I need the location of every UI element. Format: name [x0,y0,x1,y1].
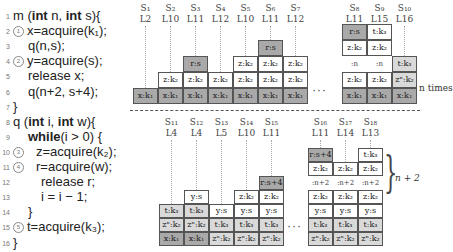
location-label: L13 [358,128,383,139]
code-line: 1m (int n, int s){ [0,8,100,23]
line-number: 12 [0,175,10,190]
step-marker-icon: 4 [13,162,24,173]
code-text: q (int i, int w){ [13,114,95,129]
repeat-note: n + 2 [395,173,420,183]
code-token: y=acquire(s); [27,53,103,68]
lock-cell: z:k₂ [367,72,392,88]
guide-line [245,26,246,56]
code-text: y=acquire(s); [27,53,103,68]
line-number: 7 [0,100,10,115]
guide-line [246,140,247,190]
code-line: 42y=acquire(s); [0,53,103,68]
lock-cell: zⁿ:k₂ [159,218,184,232]
repeat-marker: :n+2 [308,176,333,190]
repeat-marker: :n+2 [333,176,358,190]
line-number: 6 [0,85,10,100]
step-marker-icon: 1 [13,26,24,37]
guide-line [270,26,271,40]
guide-line [145,26,146,88]
lock-cell: y:s [308,204,333,218]
lock-cell: t:k₃ [367,24,392,40]
code-token: } [28,204,32,219]
lock-cell: x:k₁ [184,232,209,246]
line-number: 5 [0,69,10,84]
code-line: 7} [0,99,17,114]
lock-cell: t:k₃ [259,218,284,232]
code-line: 114r=acquire(w); [0,159,112,174]
guide-line [221,140,222,204]
lock-cell: x:k₁ [158,88,183,104]
lock-cell: zⁿ:k₂ [358,232,383,246]
location-label: L14 [333,128,358,139]
line-number: 9 [0,130,10,145]
lock-cell: zⁿ:k₂ [333,232,358,246]
code-line: 6q(n+2, s+4); [0,84,98,99]
lock-cell: x:k₁ [342,88,367,104]
state-label: S₁₆ [308,117,333,128]
keyword: while [28,129,61,144]
code-token: i, [44,114,58,129]
step-marker-icon: 5 [13,222,24,233]
keyword: int [58,114,74,129]
lock-cell: z:k₂ [258,72,283,88]
lock-cell: z:k₂ [233,56,258,72]
keyword: int [32,8,48,23]
lock-cell: t:k₃ [234,218,259,232]
lock-cell: x:k₁ [159,232,184,246]
code-text: z=acquire(k₂); [27,144,117,159]
code-text: r=acquire(w); [27,159,112,174]
state-label: S₁₅ [259,117,284,128]
code-line: 21x=acquire(k₁); [0,23,107,38]
code-text: } [13,204,32,219]
code-token: q(n+2, s+4); [28,84,98,99]
code-line: 14} [0,204,32,219]
state-label: S₅ [233,3,258,14]
location-label: L10 [233,14,258,25]
code-line: 103z=acquire(k₂); [0,144,117,159]
lock-cell: zⁿ:k₂ [259,232,284,246]
code-token: q(n,s); [28,38,65,53]
code-token: i = i − 1; [41,189,87,204]
code-line: 9while(i > 0) { [0,129,102,144]
lock-cell: z:k₂ [308,190,333,204]
guide-line [345,140,346,162]
lock-cell: z:k₂ [342,72,367,88]
location-label: L10 [158,14,183,25]
code-text: t=acquire(k₃); [27,219,105,234]
code-text: x=acquire(k₁); [27,23,107,38]
line-number: 16 [0,236,10,251]
keyword: int [66,8,82,23]
state-label: S₁₀ [392,3,417,14]
lock-cell: y:s [259,204,284,218]
lock-cell: z:k₂ [259,190,284,204]
guide-line [195,26,196,56]
lock-cell: x:k₁ [392,88,417,104]
code-token: t=acquire(k₃); [27,219,105,234]
line-number: 14 [0,205,10,220]
state-label: S₁₄ [234,117,259,128]
lock-cell: y:s [184,190,209,204]
lock-cell: r:s [183,56,208,72]
code-token: release x; [28,68,84,83]
state-label: S₆ [258,3,283,14]
ellipsis: ··· [312,83,327,97]
state-label: S₁₈ [358,117,383,128]
location-label: L12 [283,14,308,25]
code-text: release x; [13,68,84,83]
line-number: 13 [0,190,10,205]
state-label: S₁₂ [184,117,209,128]
location-label: L4 [184,128,209,139]
lock-cell: y:s [333,204,358,218]
lock-cell: z:k₂ [333,162,358,176]
location-label: L11 [183,14,208,25]
location-label: L16 [392,14,417,25]
lock-cell: t:k₃ [358,148,383,162]
code-line: 155t=acquire(k₃); [0,219,105,234]
line-number: 10 [0,145,10,160]
code-text: i = i − 1; [13,189,87,204]
line-number: 15 [0,220,10,235]
guide-line [220,26,221,72]
location-label: L11 [308,128,333,139]
lock-cell: y:s [209,204,234,218]
lock-cell: z:k₂ [234,190,259,204]
